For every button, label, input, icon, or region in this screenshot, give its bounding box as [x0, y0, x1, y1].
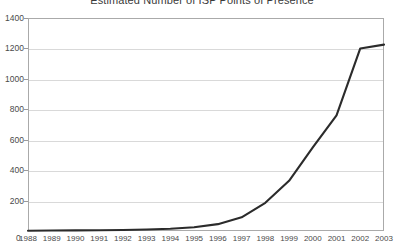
x-tick-label-1997: 1997 [233, 233, 251, 244]
y-tick-label-1400: 1400 [0, 13, 24, 23]
x-tick-label-1999: 1999 [280, 233, 298, 244]
y-tick-label-600: 600 [0, 135, 24, 145]
y-tick-label-1200: 1200 [0, 43, 24, 53]
x-tick-label-1992: 1992 [114, 233, 132, 244]
y-tick-label-800: 800 [0, 104, 24, 114]
y-axis: 200400600800100012001400 [0, 0, 26, 246]
x-tick-label-1991: 1991 [90, 233, 108, 244]
y-tick-label-400: 400 [0, 165, 24, 175]
chart-title: Estimated Number of ISP Points of Presen… [0, 0, 404, 7]
x-tick-label-2000: 2000 [304, 233, 322, 244]
chart-container: Estimated Number of ISP Points of Presen… [0, 0, 404, 246]
y-tick-label-200: 200 [0, 196, 24, 206]
x-tick-label-1996: 1996 [209, 233, 227, 244]
x-tick-label-1990: 1990 [67, 233, 85, 244]
data-series-line [28, 18, 384, 231]
x-tick-label-1998: 1998 [256, 233, 274, 244]
x-tick-label-2002: 2002 [351, 233, 369, 244]
x-axis: 0 19881989199019911992199319941995199619… [0, 233, 404, 246]
x-tick-label-1993: 1993 [138, 233, 156, 244]
series-path-isp-pops [28, 45, 384, 231]
x-tick-label-2003: 2003 [375, 233, 393, 244]
x-tick-label-1994: 1994 [161, 233, 179, 244]
x-tick-label-1995: 1995 [185, 233, 203, 244]
y-tick-label-1000: 1000 [0, 74, 24, 84]
x-tick-label-1988: 1988 [19, 233, 37, 244]
x-tick-label-2001: 2001 [328, 233, 346, 244]
x-tick-label-1989: 1989 [43, 233, 61, 244]
